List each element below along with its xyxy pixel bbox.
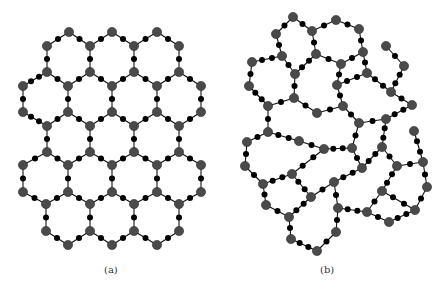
major-node [247, 57, 256, 66]
minor-node [259, 96, 265, 102]
minor-node [414, 138, 420, 144]
minor-node [392, 80, 398, 86]
major-node [107, 160, 116, 169]
minor-node [187, 116, 193, 122]
minor-node [340, 174, 346, 180]
major-node [107, 107, 116, 116]
minor-node [321, 23, 327, 29]
minor-node [370, 118, 376, 124]
major-node [307, 26, 316, 35]
panel-a-caption: (a) [104, 264, 118, 275]
minor-node [120, 195, 126, 201]
minor-node [55, 76, 61, 82]
major-node [332, 80, 341, 89]
minor-node [279, 174, 285, 180]
minor-node [395, 215, 401, 221]
minor-node [198, 96, 204, 102]
minor-node [295, 179, 301, 185]
minor-node [387, 154, 393, 160]
minor-node [20, 176, 26, 182]
minor-node [354, 74, 360, 80]
minor-node [36, 118, 42, 124]
minor-node [275, 132, 281, 138]
minor-node [43, 215, 49, 221]
minor-node [270, 178, 276, 184]
minor-node [176, 136, 182, 142]
minor-node [389, 171, 395, 177]
minor-node [400, 107, 406, 113]
minor-node [54, 195, 60, 201]
minor-node [36, 74, 42, 80]
major-node [333, 203, 342, 212]
major-node [196, 81, 205, 90]
major-node [152, 27, 161, 36]
minor-node [309, 142, 315, 148]
minor-node [262, 192, 268, 198]
major-node [294, 136, 303, 145]
major-node [290, 69, 299, 78]
panel-b-disordered-network [240, 12, 431, 255]
major-node [196, 187, 205, 196]
major-node [418, 157, 427, 166]
minor-node [358, 38, 364, 44]
major-node [129, 41, 138, 50]
major-node [242, 137, 251, 146]
major-node [18, 187, 27, 196]
major-node [174, 226, 183, 235]
major-node [85, 121, 94, 130]
minor-node [392, 53, 398, 59]
major-node [18, 107, 27, 116]
major-node [336, 59, 345, 68]
minor-node [276, 42, 282, 48]
minor-node [372, 76, 378, 82]
minor-node [255, 134, 261, 140]
minor-node [324, 239, 330, 245]
major-node [196, 107, 205, 116]
major-node [271, 29, 280, 38]
minor-node [109, 96, 115, 102]
minor-node [32, 156, 38, 162]
major-node [347, 143, 356, 152]
minor-node [345, 22, 351, 28]
minor-node [407, 161, 413, 167]
minor-node [55, 116, 61, 122]
minor-node [87, 215, 93, 221]
minor-node [372, 151, 378, 157]
major-node [399, 61, 408, 70]
minor-node [248, 71, 254, 77]
minor-node [305, 244, 311, 250]
minor-node [327, 107, 333, 113]
minor-node [390, 194, 396, 200]
major-node [338, 101, 347, 110]
minor-node [98, 116, 104, 122]
bond-edge [382, 191, 415, 210]
bond-edge [292, 149, 324, 174]
minor-node [282, 23, 288, 29]
minor-node [375, 214, 381, 220]
minor-node [120, 156, 126, 162]
major-node [129, 121, 138, 130]
minor-node [165, 235, 171, 241]
major-node [152, 160, 161, 169]
minor-node [417, 149, 423, 155]
major-node [362, 68, 371, 77]
minor-node [311, 40, 317, 46]
minor-node [286, 62, 292, 68]
major-node [422, 182, 431, 191]
minor-node [306, 58, 312, 64]
minor-node [344, 78, 350, 84]
major-node [386, 87, 395, 96]
major-node [284, 212, 293, 221]
major-node [174, 67, 183, 76]
minor-node [401, 201, 407, 207]
minor-node [154, 96, 160, 102]
minor-node [354, 155, 360, 161]
major-node [18, 81, 27, 90]
minor-node [187, 195, 193, 201]
major-node [129, 226, 138, 235]
minor-node [380, 135, 386, 141]
minor-node [55, 156, 61, 162]
major-node [18, 160, 27, 169]
minor-node [165, 36, 171, 42]
major-node [174, 199, 183, 208]
